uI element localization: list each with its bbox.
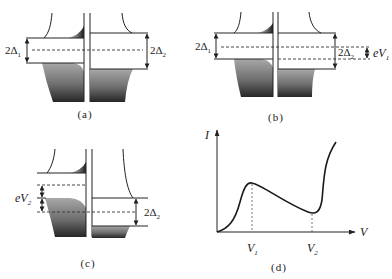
left-density-of-states-curve (47, 149, 55, 173)
right-occupied-states (90, 69, 133, 102)
panel-b-caption: (b) (268, 111, 284, 124)
left-density-of-states-curve (234, 12, 241, 33)
v2-tick-label: V2 (307, 241, 318, 257)
right-occupied-states (92, 226, 130, 238)
bias-label: eV2 (15, 191, 32, 207)
left-occupied-peak (70, 162, 86, 173)
v1-tick-label: V1 (247, 241, 258, 257)
left-occupied-states (42, 63, 84, 102)
x-axis-label: V (360, 225, 369, 239)
panel-c-caption: (c) (80, 257, 95, 270)
left-occupied-states (45, 198, 86, 237)
panel-b: 2Δ1 2Δ2 eV1 (b) (195, 12, 389, 124)
current-voltage-curve (217, 142, 336, 232)
right-density-of-states-curve (123, 149, 133, 198)
tunneling-diagram-figure: 2Δ1 2Δ2 (a) 2Δ1 2Δ (0, 0, 392, 279)
right-density-of-states-curve (122, 13, 132, 33)
y-axis-label: I (204, 128, 210, 142)
right-density-of-states-curve (309, 12, 321, 33)
right-gap-label: 2Δ2 (150, 44, 167, 59)
right-occupied-states (278, 69, 315, 97)
bias-label: eV1 (373, 46, 389, 62)
left-gap-label: 2Δ1 (5, 44, 22, 59)
left-occupied-states (234, 59, 273, 97)
right-gap-label: 2Δ2 (144, 206, 161, 221)
panel-d-caption: (d) (271, 261, 287, 274)
left-density-of-states-curve (44, 13, 52, 38)
panel-a-caption: (a) (77, 108, 92, 121)
left-occupied-peak (68, 26, 84, 38)
left-occupied-peak (258, 23, 273, 33)
panel-a: 2Δ1 2Δ2 (a) (5, 13, 167, 121)
left-gap-label: 2Δ1 (195, 40, 212, 55)
panel-d-iv-curve: I V V1 V2 (d) (204, 128, 369, 274)
panel-c: eV2 2Δ2 (c) (15, 149, 161, 270)
